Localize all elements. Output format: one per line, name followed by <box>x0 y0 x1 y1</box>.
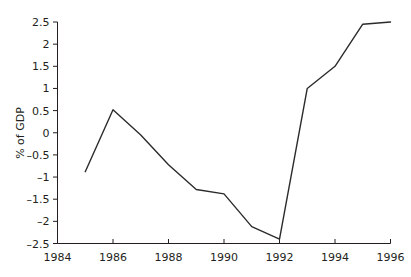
y-tick-label: 2 <box>43 38 50 51</box>
x-axis-tick-labels: 1984198619881990199219941996 <box>44 251 405 264</box>
y-tick-label: –1 <box>37 171 50 184</box>
y-tick-label: 0 <box>43 127 50 140</box>
y-tick-label: –0.5 <box>27 149 50 162</box>
data-series-line <box>85 22 390 239</box>
x-tick-label: 1988 <box>155 251 183 264</box>
y-axis-tick-labels: 2.521.510.50–0.5–1–1.5–2–2.5 <box>27 16 50 251</box>
x-tick-label: 1994 <box>321 251 349 264</box>
y-tick-label: 0.5 <box>32 105 50 118</box>
x-tick-label: 1990 <box>210 251 238 264</box>
x-axis-ticks <box>58 239 391 244</box>
y-tick-label: –2.5 <box>27 238 50 251</box>
chart-container: 2.521.510.50–0.5–1–1.5–2–2.5 19841986198… <box>0 0 411 277</box>
y-axis-label: % of GDP <box>14 107 27 159</box>
y-axis-label-text: % of GDP <box>14 107 27 159</box>
chart-axes <box>58 22 391 244</box>
y-tick-label: 2.5 <box>32 16 50 29</box>
x-tick-label: 1996 <box>377 251 405 264</box>
y-tick-label: 1 <box>43 82 50 95</box>
y-tick-label: –1.5 <box>27 193 50 206</box>
x-tick-label: 1986 <box>99 251 127 264</box>
y-tick-label: 1.5 <box>32 60 50 73</box>
y-tick-label: –2 <box>37 215 50 228</box>
line-chart: 2.521.510.50–0.5–1–1.5–2–2.5 19841986198… <box>0 0 411 277</box>
x-tick-label: 1992 <box>266 251 294 264</box>
y-axis-ticks <box>53 22 58 244</box>
x-tick-label: 1984 <box>44 251 72 264</box>
